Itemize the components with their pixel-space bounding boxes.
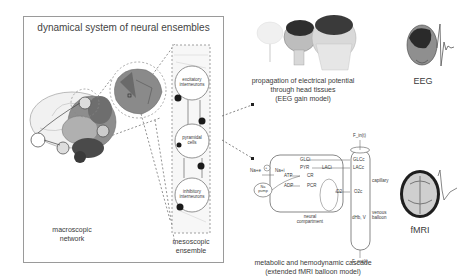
species-lac-c: LACc [353, 165, 364, 170]
venous-balloon-label: venous balloon [372, 210, 387, 220]
species-pcr: PCR [307, 183, 317, 188]
label-line: mesoscopic [160, 237, 222, 246]
species-glc-i: GLCi [300, 157, 310, 162]
population-pyramidal: pyramidal cells [176, 135, 208, 145]
population-inhibitory: inhibitory interneurons [176, 189, 208, 199]
caption-line: through head tissues [238, 85, 368, 94]
flow-in: F_in(t) [353, 133, 366, 138]
plus-sign: + [265, 165, 267, 170]
macroscopic-network-label: macroscopic network [32, 225, 112, 243]
species-dhb-v: dHb, V [352, 215, 366, 220]
capillary-label: capillary [372, 178, 389, 183]
eeg-label: EEG [405, 76, 441, 86]
flow-out: F_out(t) [352, 259, 368, 264]
species-adp: ADP [284, 183, 293, 188]
label-line: network [32, 234, 112, 243]
fmri-label: fMRI [402, 225, 438, 235]
species-lac-i: LACi [322, 165, 332, 170]
label-line: compartment [290, 219, 330, 224]
eeg-head-image [407, 24, 454, 66]
na-pump: Na pump [256, 185, 270, 193]
caption-line: propagation of electrical potential [238, 76, 368, 85]
population-label: interneurons [176, 82, 208, 87]
species-glc-c: GLCc [353, 157, 365, 162]
species-atp: ATP [284, 173, 292, 178]
label-line: macroscopic [32, 225, 112, 234]
output-arrows [222, 105, 252, 158]
species-na-e: Na+e [250, 168, 261, 173]
caption-line: (EEG gain model) [238, 94, 368, 103]
label-line: balloon [372, 215, 387, 220]
mesoscopic-ensemble-label: mesoscopic ensemble [160, 237, 222, 255]
label-line: pump [256, 189, 270, 193]
fmri-brain-image [400, 170, 457, 218]
cortex-zoom-circle [110, 62, 166, 118]
population-label: interneurons [176, 194, 208, 199]
species-na-i: Na+i [275, 168, 284, 173]
eeg-gain-model-caption: propagation of electrical potential thro… [238, 76, 368, 103]
macroscopic-brain [30, 89, 116, 163]
species-o2-c: O2c [354, 189, 362, 194]
label-line: ensemble [160, 246, 222, 255]
neural-compartment-label: neural compartment [290, 214, 330, 224]
caption-line: (extended fMRI balloon model) [248, 267, 378, 276]
population-label: cells [176, 140, 208, 145]
species-cr: CR [307, 173, 314, 178]
population-excitatory: excitatory interneurons [176, 77, 208, 87]
species-o2-i: O2 [336, 189, 342, 194]
species-pyr: PYR [300, 165, 309, 170]
head-tissue-models [257, 15, 356, 70]
